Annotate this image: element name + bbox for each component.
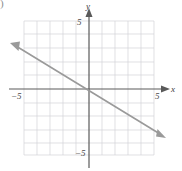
y-axis-label: y (86, 2, 90, 11)
tick-label-y-positive-5: 5 (77, 18, 82, 27)
tick-label-y-negative-5: −5 (75, 149, 86, 158)
coordinate-plane-figure: ) (0, 0, 182, 171)
plotted-line (10, 42, 166, 139)
tick-label-x-negative-5: −5 (11, 92, 22, 101)
tick-label-x-positive-5: 5 (155, 92, 160, 101)
x-axis-label: x (171, 85, 175, 94)
x-axis-arrow-icon (161, 86, 170, 93)
graph-svg (0, 0, 182, 171)
line-arrow-left-icon (10, 42, 20, 52)
y-axis (86, 8, 93, 168)
line-arrow-right-icon (156, 129, 166, 138)
